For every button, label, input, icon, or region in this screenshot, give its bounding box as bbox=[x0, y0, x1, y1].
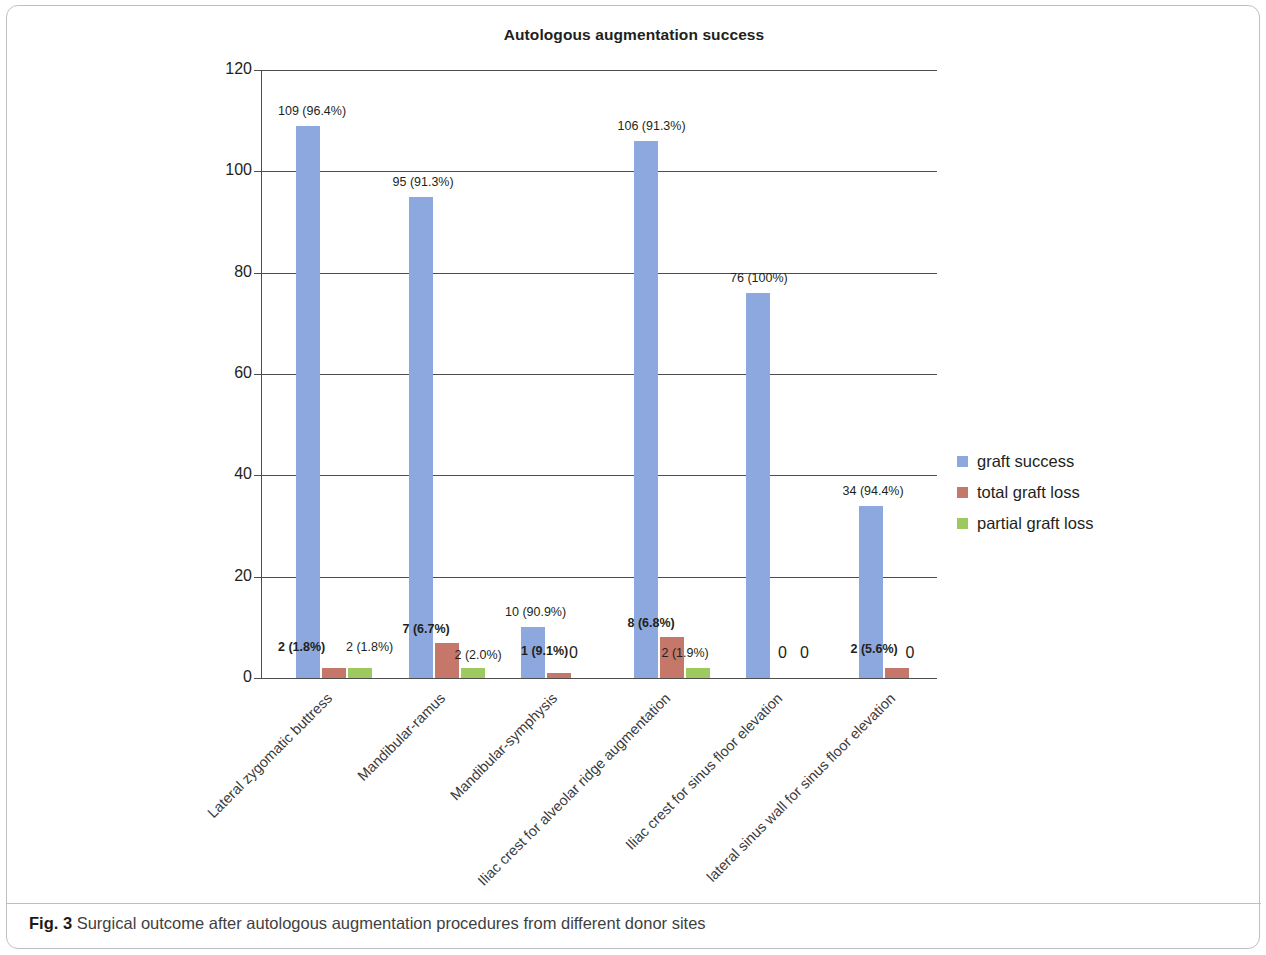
y-axis-tick-labels: 020406080100120 bbox=[192, 70, 252, 678]
chart-title: Autologous augmentation success bbox=[7, 26, 1261, 44]
legend-item[interactable]: partial graft loss bbox=[957, 508, 1177, 539]
y-axis-tick bbox=[254, 70, 262, 71]
figure-frame: Autologous augmentation success 02040608… bbox=[6, 5, 1260, 949]
chart-area: Autologous augmentation success 02040608… bbox=[7, 6, 1261, 903]
y-axis-tick-label: 120 bbox=[225, 60, 252, 78]
y-axis-tick bbox=[254, 171, 262, 172]
bar-success[interactable] bbox=[409, 197, 433, 678]
legend-label: total graft loss bbox=[977, 483, 1080, 502]
gridline bbox=[262, 273, 937, 274]
bar-total-loss[interactable] bbox=[322, 668, 346, 678]
bar-value-label: 2 (1.8%) bbox=[346, 640, 393, 654]
bar-total-loss[interactable] bbox=[547, 673, 571, 678]
gridline bbox=[262, 577, 937, 578]
bar-value-label: 2 (1.8%) bbox=[278, 640, 325, 654]
bar-value-label: 1 (9.1%) bbox=[521, 644, 568, 658]
x-axis-category-labels: Lateral zygomatic buttressMandibular-ram… bbox=[7, 684, 1261, 899]
bar-value-label: 95 (91.3%) bbox=[393, 175, 454, 189]
bar-value-label: 0 bbox=[800, 644, 809, 662]
bar-success[interactable] bbox=[296, 126, 320, 678]
bar-value-label: 7 (6.7%) bbox=[403, 622, 450, 636]
legend-item[interactable]: graft success bbox=[957, 446, 1177, 477]
legend-swatch-icon bbox=[957, 518, 968, 529]
bar-value-label: 10 (90.9%) bbox=[505, 605, 566, 619]
y-axis-tick bbox=[254, 577, 262, 578]
gridline bbox=[262, 171, 937, 172]
bar-partial-loss[interactable] bbox=[348, 668, 372, 678]
plot-area: 109 (96.4%)2 (1.8%)2 (1.8%)95 (91.3%)7 (… bbox=[262, 70, 937, 678]
y-axis-tick bbox=[254, 374, 262, 375]
bar-value-label: 0 bbox=[906, 644, 915, 662]
gridline bbox=[262, 70, 937, 71]
bar-partial-loss[interactable] bbox=[686, 668, 710, 678]
legend-label: graft success bbox=[977, 452, 1074, 471]
chart-legend: graft successtotal graft losspartial gra… bbox=[957, 446, 1177, 539]
bar-value-label: 34 (94.4%) bbox=[843, 484, 904, 498]
y-axis-tick-label: 100 bbox=[225, 161, 252, 179]
bar-value-label: 2 (1.9%) bbox=[662, 646, 709, 660]
y-axis-tick bbox=[254, 678, 262, 679]
bar-total-loss[interactable] bbox=[885, 668, 909, 678]
legend-swatch-icon bbox=[957, 487, 968, 498]
legend-item[interactable]: total graft loss bbox=[957, 477, 1177, 508]
y-axis-tick-label: 40 bbox=[234, 465, 252, 483]
bar-value-label: 0 bbox=[778, 644, 787, 662]
legend-label: partial graft loss bbox=[977, 514, 1093, 533]
figure-number: Fig. 3 bbox=[29, 914, 72, 932]
bar-value-label: 109 (96.4%) bbox=[278, 104, 346, 118]
y-axis-tick-label: 60 bbox=[234, 364, 252, 382]
bar-success[interactable] bbox=[634, 141, 658, 678]
y-axis-tick-label: 20 bbox=[234, 567, 252, 585]
bar-value-label: 8 (6.8%) bbox=[628, 616, 675, 630]
bar-value-label: 2 (2.0%) bbox=[455, 648, 502, 662]
gridline bbox=[262, 678, 937, 679]
y-axis-tick-label: 80 bbox=[234, 263, 252, 281]
bar-value-label: 76 (100%) bbox=[730, 271, 788, 285]
y-axis-tick bbox=[254, 273, 262, 274]
bar-value-label: 106 (91.3%) bbox=[618, 119, 686, 133]
bar-value-label: 0 bbox=[569, 644, 578, 662]
gridline bbox=[262, 374, 937, 375]
y-axis-tick bbox=[254, 475, 262, 476]
legend-swatch-icon bbox=[957, 456, 968, 467]
bar-value-label: 2 (5.6%) bbox=[851, 642, 898, 656]
bar-success[interactable] bbox=[746, 293, 770, 678]
bar-partial-loss[interactable] bbox=[461, 668, 485, 678]
caption-divider bbox=[7, 903, 1261, 904]
figure-caption: Fig. 3 Surgical outcome after autologous… bbox=[29, 914, 706, 933]
figure-caption-body: Surgical outcome after autologous augmen… bbox=[77, 914, 706, 932]
gridline bbox=[262, 475, 937, 476]
